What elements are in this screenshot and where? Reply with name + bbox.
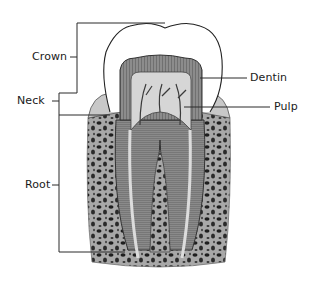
label-pulp: Pulp — [274, 101, 298, 113]
label-crown: Crown — [32, 51, 67, 63]
tooth-illustration — [0, 0, 318, 285]
label-root: Root — [25, 179, 50, 191]
tooth-roots — [115, 120, 205, 258]
label-dentin: Dentin — [250, 72, 287, 84]
label-neck: Neck — [17, 95, 45, 107]
tooth-diagram: Crown Neck Root Dentin Pulp — [0, 0, 318, 285]
